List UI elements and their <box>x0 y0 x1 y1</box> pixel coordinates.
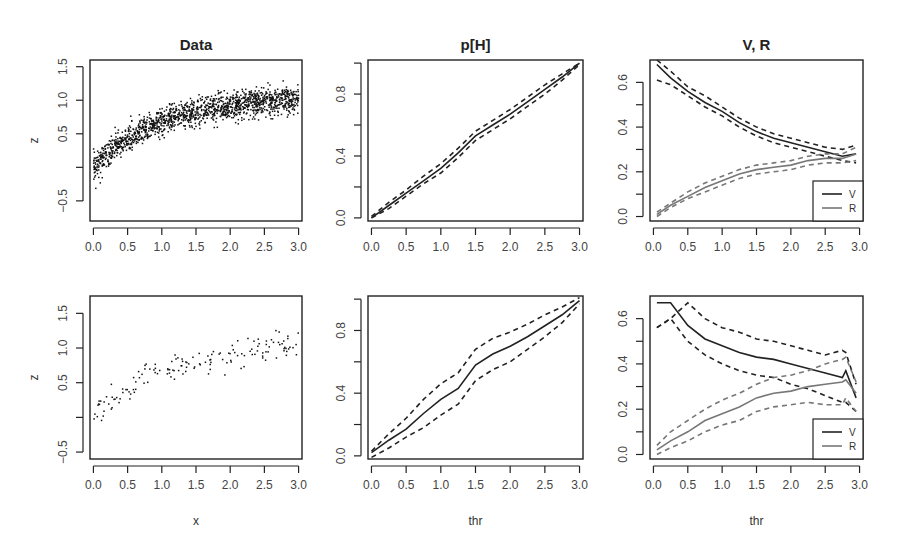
x-tick-label: 1.0 <box>432 478 449 492</box>
scatter-points <box>93 330 299 421</box>
y-tick-label: 0.8 <box>334 322 348 339</box>
series-lines <box>372 298 580 458</box>
legend: VR <box>813 419 863 459</box>
y-tick-label: 1.5 <box>56 305 70 322</box>
line-lower <box>372 304 580 458</box>
line-v-lower <box>657 80 856 163</box>
panel-data-top: 0.00.51.01.52.02.53.0−0.50.51.01.5Dataz <box>27 36 307 254</box>
figure: 0.00.51.01.52.02.53.0−0.50.51.01.5Dataz0… <box>0 0 897 558</box>
x-tick-label: 2.0 <box>502 478 519 492</box>
x-tick-label: 1.5 <box>748 240 765 254</box>
panel-title: p[H] <box>461 36 491 53</box>
x-tick-label: 2.5 <box>256 240 273 254</box>
legend-label: R <box>849 203 856 214</box>
y-tick-label: −0.5 <box>56 189 70 213</box>
x-tick-label: 0.0 <box>645 240 662 254</box>
legend-label: V <box>849 427 856 438</box>
y-tick-label: 0.4 <box>334 147 348 164</box>
y-tick-label: 0.0 <box>334 447 348 464</box>
x-tick-label: 1.0 <box>714 240 731 254</box>
series-lines <box>372 63 580 218</box>
y-axis: −0.50.51.01.5 <box>56 58 83 213</box>
y-tick-label: −0.5 <box>56 440 70 464</box>
x-tick-label: 2.5 <box>537 478 554 492</box>
panel-ph-bottom: 0.00.51.01.52.02.53.00.00.40.8thr <box>334 296 588 528</box>
legend-label: V <box>849 189 856 200</box>
x-tick-label: 1.5 <box>467 478 484 492</box>
line-v-upper <box>657 60 856 149</box>
y-axis-label: z <box>27 375 41 381</box>
line-estimate <box>372 301 580 453</box>
x-tick-label: 2.5 <box>817 478 834 492</box>
x-tick-label: 0.0 <box>363 240 380 254</box>
x-tick-label: 0.0 <box>645 478 662 492</box>
x-tick-label: 1.0 <box>153 478 170 492</box>
y-tick-label: 0.6 <box>616 310 630 327</box>
x-tick-label: 2.0 <box>783 478 800 492</box>
y-tick-label: 0.2 <box>616 163 630 180</box>
y-axis: 0.00.20.40.6 <box>616 74 643 225</box>
x-tick-label: 3.0 <box>290 478 307 492</box>
line-v <box>657 65 856 157</box>
x-tick-label: 1.5 <box>188 240 205 254</box>
x-tick-label: 1.0 <box>714 478 731 492</box>
y-axis: 0.00.40.8 <box>334 63 361 226</box>
x-tick-label: 0.5 <box>679 240 696 254</box>
x-tick-label: 2.5 <box>817 240 834 254</box>
panel-ph-top: 0.00.51.01.52.02.53.00.00.40.8p[H] <box>334 36 588 254</box>
panel-vr-top: 0.00.51.01.52.02.53.00.00.20.40.6V, RVR <box>616 36 868 254</box>
y-tick-label: 0.5 <box>56 125 70 142</box>
line-upper <box>372 298 580 452</box>
x-axis: 0.00.51.01.52.02.53.0 <box>363 466 588 492</box>
y-tick-label: 0.4 <box>334 385 348 402</box>
panel-vr-bottom: 0.00.51.01.52.02.53.00.00.20.40.6thrVR <box>616 296 868 528</box>
x-tick-label: 1.5 <box>188 478 205 492</box>
x-tick-label: 0.5 <box>679 478 696 492</box>
x-tick-label: 1.0 <box>432 240 449 254</box>
x-axis-label: x <box>193 514 199 528</box>
legend-label: R <box>849 441 856 452</box>
x-tick-label: 2.0 <box>222 240 239 254</box>
scatter-points <box>93 80 299 189</box>
line-v-upper <box>657 303 856 385</box>
y-tick-label: 1.5 <box>56 58 70 75</box>
x-tick-label: 0.5 <box>398 240 415 254</box>
y-axis: 0.00.40.8 <box>334 299 361 464</box>
y-tick-label: 0.2 <box>616 401 630 418</box>
y-tick-label: 0.0 <box>616 208 630 225</box>
y-tick-label: 1.0 <box>56 339 70 356</box>
x-tick-label: 1.5 <box>748 478 765 492</box>
y-tick-label: 0.6 <box>616 74 630 91</box>
x-tick-label: 3.0 <box>571 240 588 254</box>
x-tick-label: 3.0 <box>851 478 868 492</box>
x-tick-label: 2.0 <box>222 478 239 492</box>
panel-data-bottom: 0.00.51.01.52.02.53.0−0.50.51.01.5xz <box>27 296 307 528</box>
panel-title: Data <box>180 36 213 53</box>
y-tick-label: 0.0 <box>616 446 630 463</box>
x-axis-label: thr <box>468 514 482 528</box>
x-tick-label: 0.0 <box>363 478 380 492</box>
y-axis: 0.00.20.40.6 <box>616 310 643 463</box>
y-tick-label: 0.4 <box>616 118 630 135</box>
x-tick-label: 1.5 <box>467 240 484 254</box>
x-tick-label: 2.5 <box>537 240 554 254</box>
x-axis: 0.00.51.01.52.02.53.0 <box>363 228 588 254</box>
x-axis-label: thr <box>749 514 763 528</box>
x-tick-label: 2.0 <box>783 240 800 254</box>
legend: VR <box>813 181 863 221</box>
x-tick-label: 0.5 <box>119 240 136 254</box>
x-tick-label: 3.0 <box>571 478 588 492</box>
x-tick-label: 3.0 <box>851 240 868 254</box>
y-tick-label: 0.5 <box>56 374 70 391</box>
y-tick-label: 0.8 <box>334 85 348 102</box>
x-axis: 0.00.51.01.52.02.53.0 <box>645 466 868 492</box>
y-tick-label: 0.4 <box>616 355 630 372</box>
x-axis: 0.00.51.01.52.02.53.0 <box>645 228 868 254</box>
y-axis: −0.50.51.01.5 <box>56 305 83 464</box>
plot-frame <box>368 296 583 459</box>
x-tick-label: 3.0 <box>290 240 307 254</box>
y-tick-label: 0.0 <box>334 209 348 226</box>
x-tick-label: 1.0 <box>153 240 170 254</box>
y-axis-label: z <box>27 138 41 144</box>
x-axis: 0.00.51.01.52.02.53.0 <box>85 228 307 254</box>
